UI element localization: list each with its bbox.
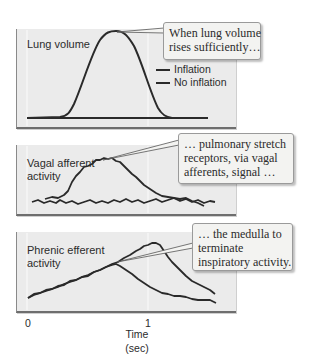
callout-pointer-3 <box>117 243 193 262</box>
callout-2-line-3: afferents, signal … <box>184 165 288 179</box>
callout-2-line-1: … pulmonary stretch <box>184 137 288 151</box>
vagal-afferent-label: Vagal afferent activity <box>27 157 94 183</box>
phrenic-label-line-1: Phrenic efferent <box>27 244 104 257</box>
callout-lung-volume: When lung volume rises sufficiently… <box>163 22 261 60</box>
phrenic-label-line-2: activity <box>27 257 104 270</box>
legend-swatch-no-inflation <box>156 82 170 84</box>
callout-2-line-2: receptors, via vagal <box>184 151 288 165</box>
legend: Inflation No inflation <box>156 63 227 89</box>
phrenic-efferent-label: Phrenic efferent activity <box>27 244 104 270</box>
x-axis-label-line-1: Time <box>120 327 154 341</box>
vagal-label-line-2: activity <box>27 170 94 183</box>
legend-label-inflation: Inflation <box>174 63 211 76</box>
x-axis-label: Time (sec) <box>120 327 154 355</box>
x-axis-label-line-2: (sec) <box>120 341 154 355</box>
callout-3-line-3: inspiratory activity. <box>198 255 287 269</box>
callout-phrenic: … the medulla to terminate inspiratory a… <box>192 223 293 271</box>
x-tick-0: 0 <box>25 317 31 329</box>
callout-vagal: … pulmonary stretch receptors, via vagal… <box>178 133 294 184</box>
vagal-label-line-1: Vagal afferent <box>27 157 94 170</box>
callout-3-line-2: terminate <box>198 241 287 255</box>
callout-pointer-1 <box>117 28 164 33</box>
callout-pointer-2 <box>103 140 179 160</box>
legend-item-inflation: Inflation <box>156 63 227 76</box>
callout-3-line-1: … the medulla to <box>198 227 287 241</box>
lung-volume-label: Lung volume <box>27 38 90 51</box>
legend-label-no-inflation: No inflation <box>174 76 227 89</box>
callout-1-line-1: When lung volume <box>169 26 255 40</box>
legend-swatch-inflation <box>156 69 170 71</box>
callout-1-line-2: rises sufficiently… <box>169 40 255 54</box>
legend-item-no-inflation: No inflation <box>156 76 227 89</box>
